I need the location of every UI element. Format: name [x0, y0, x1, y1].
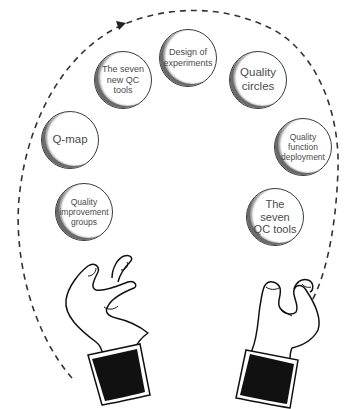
right-hand-icon	[252, 279, 319, 360]
ball-quality-circles: Qualitycircles	[229, 51, 287, 109]
ball-seven-new-qc-tools: The sevennew QCtools	[94, 51, 152, 109]
left-cuff-icon	[88, 344, 150, 405]
ball-label-line: QC tools	[254, 223, 297, 236]
ball-label-line: new QC	[102, 75, 144, 86]
ball-label-line: experiments	[163, 58, 212, 69]
ball-label-line: seven	[254, 211, 297, 224]
left-hand-icon	[66, 255, 148, 355]
ball-label-line: tools	[102, 85, 144, 96]
ball-quality-improvement-groups: Qualityimprovementgroups	[55, 183, 113, 241]
ball-label-line: deployment	[281, 152, 325, 162]
ball-label-line: The	[254, 198, 297, 211]
ball-design-of-experiments: Design ofexperiments	[159, 29, 217, 87]
right-cuff-icon	[236, 350, 298, 408]
ball-label-line: Quality	[240, 66, 276, 80]
ball-seven-qc-tools: ThesevenQC tools	[246, 188, 304, 246]
ball-label-line: function	[281, 142, 325, 152]
ball-label-line: Quality	[281, 132, 325, 142]
ball-label-line: circles	[240, 80, 276, 94]
ball-q-map: Q-map	[41, 111, 99, 169]
ball-label-line: The seven	[102, 64, 144, 75]
arrowhead-top-icon	[116, 21, 126, 30]
ball-quality-function-deployment: Qualityfunctiondeployment	[274, 118, 332, 176]
ball-label-line: improvement	[59, 207, 108, 217]
ball-label-line: groups	[59, 217, 108, 227]
ball-label-line: Quality	[59, 197, 108, 207]
ball-label-line: Q-map	[52, 133, 87, 147]
ball-label-line: Design of	[163, 47, 212, 58]
